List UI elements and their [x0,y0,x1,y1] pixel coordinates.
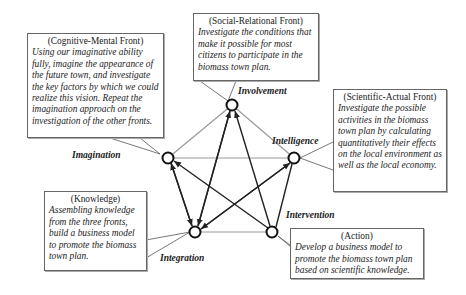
box-body: Using our imaginative ability fully, ima… [32,47,159,127]
box-social-relational-front: (Social-Relational Front) Investigate th… [193,13,319,81]
box-body: Investigate the possible activities in t… [338,103,442,171]
box-body: Develop a business model to promote the … [295,242,419,276]
node-involvement [227,100,238,111]
node-integration [190,227,201,238]
box-body: Investigate the conditions that make it … [198,27,314,73]
label-involvement: Involvement [238,86,287,96]
pentagon-edges [168,105,294,232]
node-imagination [163,153,174,164]
box-title: (Scientific-Actual Front) [338,92,442,103]
label-imagination: Imagination [72,150,121,160]
box-action: (Action) Develop a business model to pro… [290,228,424,279]
box-title: (Cognitive-Mental Front) [32,36,159,47]
box-cognitive-mental-front: (Cognitive-Mental Front) Using our imagi… [27,33,164,138]
label-integration: Integration [160,253,204,263]
node-intervention [267,227,278,238]
box-title: (Knowledge) [49,194,142,205]
arrows [171,111,292,229]
box-title: (Action) [295,231,419,242]
box-title: (Social-Relational Front) [198,16,314,27]
label-intelligence: Intelligence [272,136,318,146]
box-knowledge: (Knowledge) Assembling knowledge from th… [44,191,147,271]
label-intervention: Intervention [286,210,335,220]
box-scientific-actual-front: (Scientific-Actual Front) Investigate th… [333,89,447,192]
node-intelligence [289,153,300,164]
box-body: Assembling knowledge from the three fron… [49,205,142,262]
